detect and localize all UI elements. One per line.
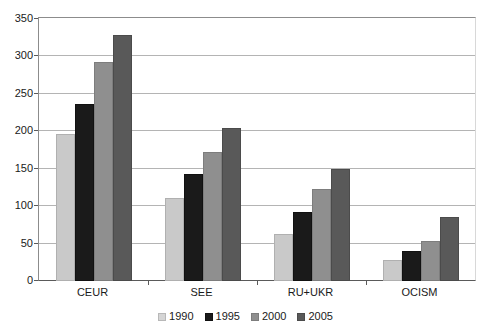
legend-swatch-icon: [251, 313, 259, 321]
legend-label: 2005: [308, 311, 332, 322]
legend-swatch-icon: [158, 313, 166, 321]
legend-item: 1995: [205, 311, 240, 322]
chart-legend: 1990199520002005: [0, 311, 491, 322]
y-axis-tick-label: 200: [1, 125, 33, 136]
y-axis-tick-label: 0: [1, 275, 33, 286]
bar: [165, 198, 184, 281]
y-axis-tick-mark: [34, 55, 38, 56]
x-axis-tick-label: CEUR: [77, 286, 108, 298]
bar-group: [257, 18, 366, 281]
y-axis-tick-mark: [34, 130, 38, 131]
y-axis-tick-mark: [34, 205, 38, 206]
bar-chart-figure: 050100150200250300350 CEURSEERU+UKROCISM…: [0, 0, 491, 334]
legend-item: 1990: [158, 311, 193, 322]
y-axis-tick-label: 100: [1, 200, 33, 211]
bar: [293, 212, 312, 281]
y-axis-tick-label: 300: [1, 50, 33, 61]
bar: [312, 189, 331, 281]
bar: [421, 241, 440, 281]
bar: [274, 234, 293, 281]
x-axis-tick-mark: [257, 281, 258, 285]
legend-label: 2000: [262, 311, 286, 322]
bar: [75, 104, 94, 281]
bar: [113, 35, 132, 281]
legend-swatch-icon: [297, 313, 305, 321]
legend-item: 2000: [251, 311, 286, 322]
y-axis-tick-mark: [34, 168, 38, 169]
bar: [222, 128, 241, 281]
y-axis-tick-label: 250: [1, 87, 33, 98]
x-axis-tick-label: SEE: [190, 286, 212, 298]
y-axis-tick-mark: [34, 93, 38, 94]
x-axis: CEURSEERU+UKROCISM: [38, 286, 476, 302]
bar: [402, 251, 421, 281]
bars-layer: [39, 18, 475, 281]
y-axis-tick-label: 150: [1, 162, 33, 173]
legend-label: 1990: [169, 311, 193, 322]
bar-group: [366, 18, 475, 281]
legend-swatch-icon: [205, 313, 213, 321]
y-axis-tick-label: 350: [1, 13, 33, 24]
bar: [184, 174, 203, 281]
bar: [203, 152, 222, 282]
bar: [440, 217, 459, 281]
y-axis-tick-mark: [34, 243, 38, 244]
bar: [383, 260, 402, 281]
x-axis-tick-mark: [366, 281, 367, 285]
legend-label: 1995: [216, 311, 240, 322]
y-axis-tick-label: 50: [1, 237, 33, 248]
bar: [56, 134, 75, 281]
y-axis-tick-mark: [34, 18, 38, 19]
y-axis-tick-mark: [34, 280, 38, 281]
bar-group: [148, 18, 257, 281]
x-axis-tick-label: RU+UKR: [288, 286, 334, 298]
bar: [331, 169, 350, 281]
x-axis-tick-label: OCISM: [401, 286, 437, 298]
bar-group: [39, 18, 148, 281]
y-axis: 050100150200250300350: [0, 17, 33, 281]
legend-item: 2005: [297, 311, 332, 322]
x-axis-tick-mark: [148, 281, 149, 285]
bar: [94, 62, 113, 281]
